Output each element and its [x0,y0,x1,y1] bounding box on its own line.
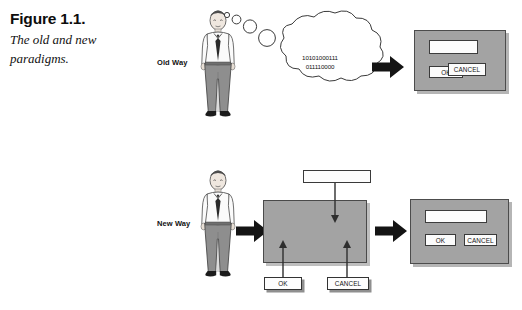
new-way-result-arrow-icon [375,220,407,242]
textfield-drop-connector-icon [330,183,340,225]
new-way-dialog-text-field[interactable] [425,210,487,223]
figure-caption-block: Figure 1.1. The old and new paradigms. [10,10,140,69]
new-way-dialog-cancel-button[interactable]: CANCEL [464,234,497,246]
cancel-palette-widget[interactable]: CANCEL [327,277,369,290]
thought-bubble-icon [222,6,394,88]
new-way-label: New Way [157,219,190,228]
new-way-dialog-ok-button[interactable]: OK [425,234,456,246]
new-way-dialog[interactable]: OK CANCEL [410,199,509,264]
old-way-dialog-text-field[interactable] [429,40,478,54]
old-way-flow-arrow-icon [372,56,404,78]
old-way-dialog[interactable]: OK CANCEL [414,30,506,91]
ok-palette-widget[interactable]: OK [264,277,302,290]
old-way-dialog-cancel-button[interactable]: CANCEL [448,63,486,76]
cancel-drop-connector-icon [342,240,352,278]
figure-number: Figure 1.1. [10,10,140,27]
figure-caption-text: The old and new paradigms. [10,31,140,69]
old-way-label: Old Way [157,58,187,67]
textfield-palette-widget[interactable] [303,170,371,183]
ok-drop-connector-icon [278,240,288,278]
figure-page: Figure 1.1. The old and new paradigms. O… [0,0,522,310]
binary-code-line-2: 011110000 [287,62,353,72]
